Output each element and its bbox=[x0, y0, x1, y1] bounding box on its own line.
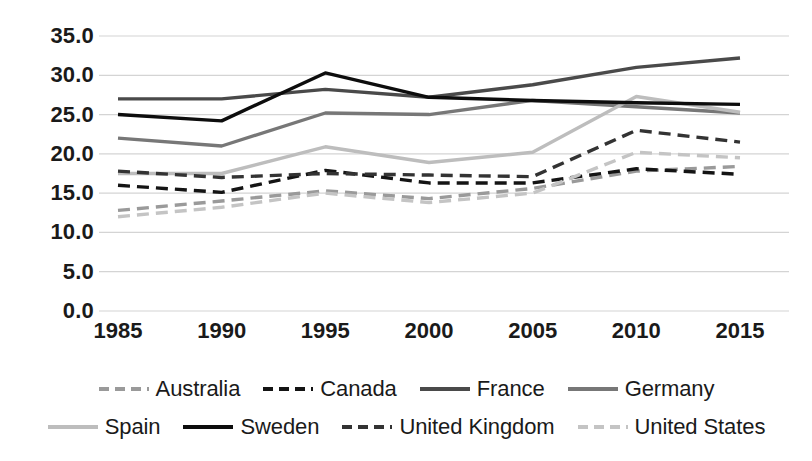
legend-swatch-icon bbox=[98, 380, 150, 398]
legend-swatch-icon bbox=[567, 380, 619, 398]
legend-swatch-icon bbox=[47, 418, 99, 436]
series-line-france bbox=[118, 58, 740, 99]
x-tick-label: 2015 bbox=[716, 318, 765, 344]
x-tick-label: 1985 bbox=[94, 318, 143, 344]
x-tick-label: 1995 bbox=[301, 318, 350, 344]
legend-item-united-kingdom[interactable]: United Kingdom bbox=[341, 414, 554, 440]
legend-item-united-states[interactable]: United States bbox=[577, 414, 766, 440]
legend-swatch-icon bbox=[341, 418, 393, 436]
y-tick-label: 20.0 bbox=[50, 141, 94, 167]
y-tick-label: 5.0 bbox=[63, 259, 94, 285]
legend-item-sweden[interactable]: Sweden bbox=[182, 414, 319, 440]
y-tick-label: 25.0 bbox=[50, 102, 94, 128]
y-tick-label: 15.0 bbox=[50, 180, 94, 206]
legend: AustraliaCanadaFranceGermany SpainSweden… bbox=[0, 372, 812, 461]
legend-label: Australia bbox=[156, 376, 241, 402]
y-tick-label: 35.0 bbox=[50, 23, 94, 49]
x-tick-label: 2005 bbox=[508, 318, 557, 344]
legend-label: Spain bbox=[105, 414, 161, 440]
x-tick-label: 2010 bbox=[612, 318, 661, 344]
legend-label: Germany bbox=[625, 376, 715, 402]
legend-item-germany[interactable]: Germany bbox=[567, 376, 715, 402]
legend-item-spain[interactable]: Spain bbox=[47, 414, 161, 440]
legend-item-australia[interactable]: Australia bbox=[98, 376, 241, 402]
legend-swatch-icon bbox=[262, 380, 314, 398]
legend-swatch-icon bbox=[419, 380, 471, 398]
legend-label: United States bbox=[635, 414, 766, 440]
series-line-germany bbox=[118, 100, 740, 146]
line-chart: 35.030.025.020.015.010.05.00.0 198519901… bbox=[0, 0, 812, 461]
x-axis: 1985199019952000200520102015 bbox=[0, 312, 812, 352]
legend-swatch-icon bbox=[577, 418, 629, 436]
legend-item-canada[interactable]: Canada bbox=[262, 376, 396, 402]
legend-item-france[interactable]: France bbox=[419, 376, 545, 402]
legend-row-first: AustraliaCanadaFranceGermany bbox=[0, 376, 812, 402]
legend-row-second: SpainSwedenUnited KingdomUnited States bbox=[0, 414, 812, 440]
x-tick-label: 1990 bbox=[197, 318, 246, 344]
legend-label: United Kingdom bbox=[399, 414, 554, 440]
y-tick-label: 30.0 bbox=[50, 62, 94, 88]
legend-label: Sweden bbox=[240, 414, 319, 440]
x-tick-label: 2000 bbox=[405, 318, 454, 344]
y-tick-label: 10.0 bbox=[50, 219, 94, 245]
legend-label: Canada bbox=[320, 376, 396, 402]
legend-swatch-icon bbox=[182, 418, 234, 436]
legend-label: France bbox=[477, 376, 545, 402]
